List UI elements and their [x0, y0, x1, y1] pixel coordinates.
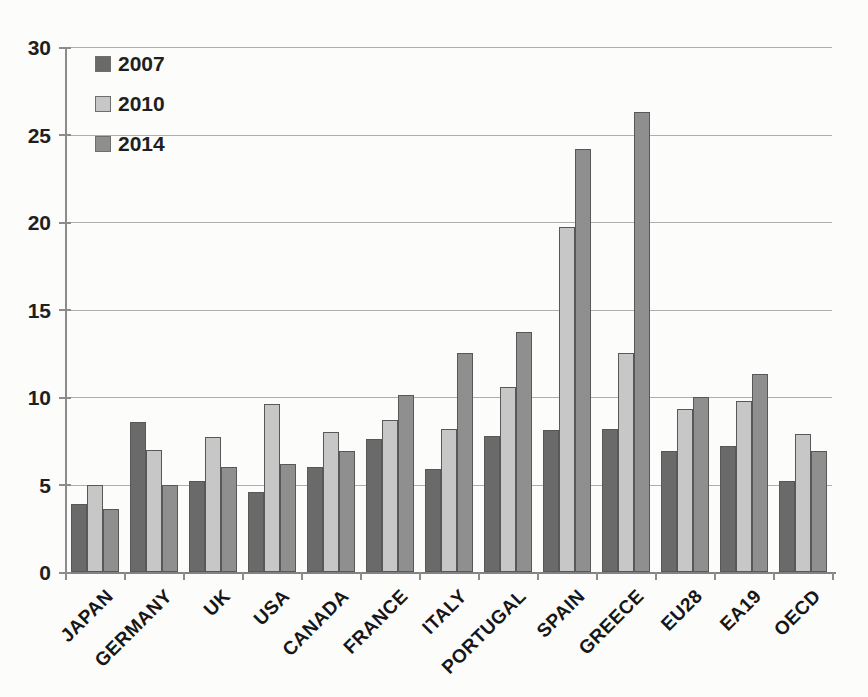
legend-label: 2010	[118, 93, 165, 114]
legend-label: 2007	[118, 53, 165, 74]
x-category-label-japan: JAPAN	[57, 586, 116, 645]
legend-label: 2014	[118, 133, 165, 154]
legend-item-2010: 2010	[95, 93, 165, 114]
legend-swatch-icon	[95, 56, 111, 72]
legend-swatch-icon	[95, 136, 111, 152]
x-category-label-eu28: EU28	[658, 586, 706, 634]
y-tick-label-0: 0	[7, 562, 51, 583]
legend-swatch-icon	[95, 96, 111, 112]
y-tick-label-10: 10	[7, 387, 51, 408]
legend-item-2007: 2007	[95, 53, 165, 74]
legend-item-2014: 2014	[95, 133, 165, 154]
x-category-label-france: FRANCE	[340, 586, 411, 657]
x-category-label-italy: ITALY	[419, 586, 470, 637]
x-category-label-spain: SPAIN	[533, 586, 588, 641]
x-category-label-ea19: EA19	[717, 586, 765, 634]
y-tick-label-25: 25	[7, 125, 51, 146]
x-category-label-usa: USA	[250, 586, 293, 629]
x-category-label-uk: UK	[201, 586, 234, 619]
y-tick-label-15: 15	[7, 300, 51, 321]
x-category-label-oecd: OECD	[771, 586, 824, 639]
scanned-bar-chart-page: 051015202530JAPANGERMANYUKUSACANADAFRANC…	[0, 0, 868, 697]
chart-legend: 200720102014	[95, 53, 165, 154]
y-tick-label-20: 20	[7, 212, 51, 233]
y-tick-label-30: 30	[7, 37, 51, 58]
y-tick-label-5: 5	[7, 475, 51, 496]
